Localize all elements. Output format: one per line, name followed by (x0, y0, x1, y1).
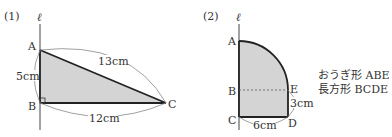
measure-cd: 6cm (253, 119, 277, 132)
vertex-e: E (290, 83, 298, 96)
diagram-canvas: (1) ℓ 13cm 5cm 12cm A B C (2) ℓ 3cm (0, 0, 392, 137)
vertex-d: D (288, 117, 297, 130)
measure-bc: 12cm (89, 112, 120, 125)
vertex-c: C (168, 98, 176, 111)
shape-fill (239, 41, 288, 117)
axis-label-l: ℓ (236, 11, 241, 24)
figure-1: (1) ℓ 13cm 5cm 12cm A B C (4, 10, 176, 130)
measure-de: 3cm (290, 97, 314, 110)
measure-ab: 5cm (16, 70, 40, 83)
vertex-b: B (228, 85, 236, 98)
figure-2-label: (2) (203, 10, 219, 23)
figure-2: (2) ℓ 3cm 6cm A B E C D おうぎ形 ABE 長方形 BCD… (203, 10, 390, 132)
vertex-c: C (228, 114, 236, 127)
vertex-b: B (28, 100, 36, 113)
caption-rectangle: 長方形 BCDE (318, 82, 388, 96)
axis-label-l: ℓ (37, 11, 42, 24)
figure-1-label: (1) (4, 10, 20, 23)
caption-sector: おうぎ形 ABE (318, 68, 390, 82)
measure-ac: 13cm (98, 55, 129, 68)
vertex-a: A (27, 40, 37, 53)
vertex-a: A (227, 35, 237, 48)
